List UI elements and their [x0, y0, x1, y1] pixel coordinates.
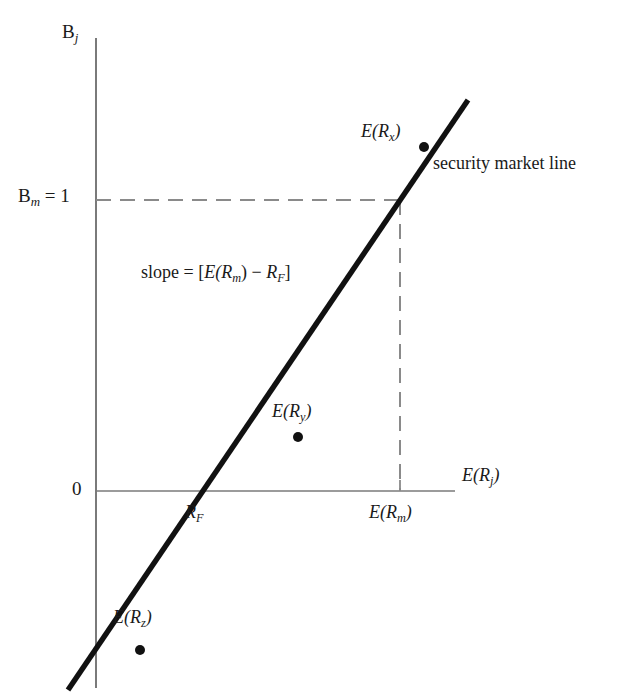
slope-rf-text: R	[266, 262, 277, 282]
security-market-line-figure: Bj Bm = 1 0 E(Rj) RF E(Rm) slope = [E(Rm…	[0, 0, 634, 698]
slope-middle-text: ) −	[241, 262, 266, 282]
x-tick-erm-close: )	[406, 502, 412, 522]
data-point-ery	[293, 432, 303, 442]
point-ery-subscript: y	[300, 410, 305, 424]
x-tick-label-market-return: E(Rm)	[369, 503, 412, 521]
x-tick-label-risk-free: RF	[185, 503, 203, 521]
x-tick-erm-subscript: m	[397, 511, 406, 525]
y-tick-label-beta-one: Bm = 1	[18, 186, 70, 205]
slope-rf-subscript: F	[277, 271, 284, 285]
y-axis-label-subscript: j	[75, 30, 79, 45]
y-tick-label-zero: 0	[72, 479, 82, 498]
point-erz-subscript: z	[141, 616, 146, 630]
point-erz-close: )	[146, 607, 152, 627]
security-market-line	[68, 100, 468, 690]
y-tick-beta-text: B	[18, 185, 31, 206]
point-ery-close: )	[305, 401, 311, 421]
point-erx-subscript: x	[389, 130, 394, 144]
data-point-label-erz: E(Rz)	[113, 608, 152, 626]
x-tick-erm-text: E(R	[369, 502, 397, 522]
x-axis-label-close: )	[493, 465, 499, 485]
data-point-label-ery: E(Ry)	[272, 402, 311, 420]
slope-prefix-text: slope = [	[141, 262, 204, 282]
slope-erm-subscript: m	[232, 271, 241, 285]
data-point-erx	[419, 142, 429, 152]
x-axis-label-text: E(R	[462, 465, 490, 485]
slope-erm-text: E(R	[204, 262, 232, 282]
slope-annotation: slope = [E(Rm) − RF]	[141, 263, 291, 281]
point-erx-prefix: E(R	[361, 121, 389, 141]
x-axis-label-subscript: j	[490, 474, 493, 488]
chart-canvas	[0, 0, 634, 698]
slope-suffix-text: ]	[285, 262, 291, 282]
point-ery-prefix: E(R	[272, 401, 300, 421]
x-axis-label: E(Rj)	[462, 466, 499, 484]
security-market-line-caption: security market line	[433, 154, 576, 172]
data-point-label-erx: E(Rx)	[361, 122, 400, 140]
y-axis-label-text: B	[62, 21, 75, 42]
point-erz-prefix: E(R	[113, 607, 141, 627]
y-tick-beta-value: = 1	[40, 185, 70, 206]
y-axis-label: Bj	[62, 22, 78, 41]
x-tick-rf-text: R	[185, 502, 196, 522]
data-point-erz	[135, 645, 145, 655]
x-tick-rf-subscript: F	[196, 511, 203, 525]
y-tick-beta-subscript: m	[31, 194, 40, 209]
point-erx-close: )	[394, 121, 400, 141]
